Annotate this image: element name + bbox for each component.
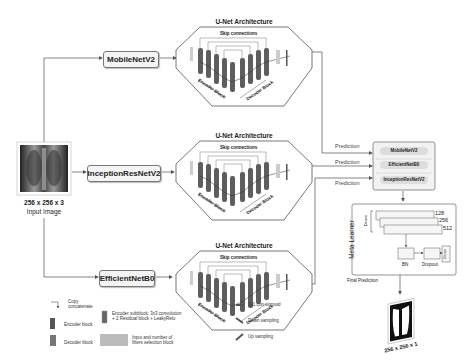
prediction-label-3: Prediction [335, 180, 359, 186]
final-dense-label: Dense [443, 249, 447, 259]
input-xray-image [17, 142, 71, 195]
input-caption: Input Image [14, 208, 74, 215]
legend-conv-sigmoid: 1x1 con sigmoid [248, 302, 281, 307]
meta-learner-title: Meta Learner [348, 220, 355, 259]
legend-up-sampling: Up sampling [248, 334, 273, 339]
units-512: 512 [443, 225, 452, 231]
dense-label: Dense [363, 215, 368, 227]
skip-label-3: Skip connections [220, 255, 257, 260]
final-prediction-label: Final Prediction [347, 278, 378, 283]
prediction-label-1: Prediction [335, 143, 359, 149]
legend-encoder-block: Encoder block [64, 322, 93, 327]
bn-label: BN [402, 262, 408, 267]
dropout-label: Dropout [422, 262, 438, 267]
stack-inceptionresnetv2: InceptionResNetV2 [380, 177, 428, 182]
unet-title-1: U-Net Architecture [184, 18, 304, 25]
skip-label-1: Skip connections [220, 31, 257, 36]
skip-label-2: Skip connections [220, 145, 257, 150]
unet-title-3: U-Net Architecture [184, 242, 304, 249]
legend-encoder-subblock: Encoder subblock: 3x3 convolution + 2 Re… [112, 311, 182, 322]
backbone-efficientnetb0: EfficientNetB0 [99, 270, 155, 287]
input-size-label: 256 x 256 x 3 [14, 199, 74, 206]
legend-down-sampling: Down sampling [248, 318, 279, 323]
legend-copy-concat: Copy concatenate [68, 299, 93, 310]
unet-title-2: U-Net Architecture [184, 132, 304, 139]
legend-input-filters: Input and number of filters selection bl… [132, 335, 174, 346]
legend-decoder-block: Decoder block [64, 340, 93, 345]
stack-mobilenetv2: MobileNetV2 [380, 148, 428, 153]
output-mask-image [388, 298, 414, 344]
stack-efficientnetb0: EfficientNetB0 [380, 162, 428, 167]
prediction-label-2: Prediction [335, 159, 359, 165]
backbone-inceptionresnetv2: InceptionResNetV2 [87, 165, 161, 182]
units-128: 128 [435, 210, 444, 216]
backbone-mobilenetv2: MobileNetV2 [103, 51, 159, 68]
units-256: 256 [439, 217, 448, 223]
